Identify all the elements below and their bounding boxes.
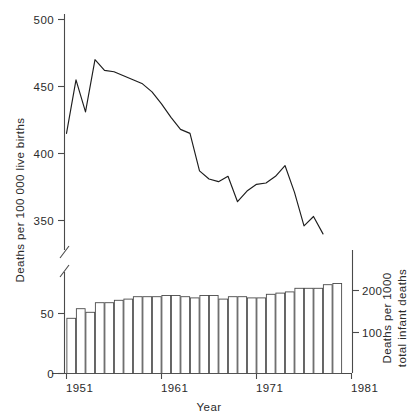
bar-rect xyxy=(257,298,266,374)
bar-rect xyxy=(247,298,256,374)
xtick-label-1981: 1981 xyxy=(351,382,378,394)
bar-rect xyxy=(95,303,104,374)
left-axis-ticks-lower xyxy=(58,314,65,374)
line-series xyxy=(67,60,324,234)
bar-rect xyxy=(86,312,95,373)
bar-series xyxy=(67,284,342,374)
right-axis-ticks xyxy=(353,291,360,333)
bar-rect xyxy=(285,292,294,374)
bar-rect xyxy=(171,296,180,374)
bar-rect xyxy=(76,309,85,374)
bar-rect xyxy=(143,297,152,374)
bar-rect xyxy=(162,296,171,374)
bar-rect xyxy=(219,299,228,373)
left-axis-ticks-upper xyxy=(58,20,65,221)
chart-svg: 500 450 400 350 50 0 200 100 1951 1961 1… xyxy=(0,0,418,420)
ytick-label-500: 500 xyxy=(34,14,54,26)
bar-rect xyxy=(152,297,161,374)
bar-rect xyxy=(209,296,218,374)
bar-rect xyxy=(266,294,275,373)
ytick-label-450: 450 xyxy=(34,81,54,93)
x-axis-ticks xyxy=(67,374,352,380)
bar-rect xyxy=(323,285,332,374)
xtick-label-1951: 1951 xyxy=(66,382,93,394)
ytick-label-50: 50 xyxy=(40,308,54,320)
bar-rect xyxy=(295,288,304,373)
bar-rect xyxy=(105,303,114,374)
chart-figure: 500 450 400 350 50 0 200 100 1951 1961 1… xyxy=(0,0,418,420)
bar-rect xyxy=(124,299,133,373)
ytick-label-400: 400 xyxy=(34,148,54,160)
bar-rect xyxy=(133,297,142,374)
y-axis-right-title-line2: total infant deaths xyxy=(396,269,408,367)
bar-rect xyxy=(304,288,313,373)
xtick-label-1961: 1961 xyxy=(161,382,188,394)
y-axis-left-title: Deaths per 100 000 live births xyxy=(14,118,26,283)
ytick-right-label-100: 100 xyxy=(362,327,382,339)
ytick-label-350: 350 xyxy=(34,215,54,227)
bar-rect xyxy=(276,293,285,373)
xtick-label-1971: 1971 xyxy=(256,382,283,394)
x-axis-title: Year xyxy=(197,401,222,413)
bar-rect xyxy=(333,284,342,374)
y-axis-right-title-line1: Deaths per 1000 xyxy=(381,272,393,363)
bar-rect xyxy=(181,297,190,374)
bar-rect xyxy=(314,288,323,373)
bar-rect xyxy=(238,297,247,374)
bar-rect xyxy=(114,300,123,373)
ytick-label-0: 0 xyxy=(47,368,54,380)
ytick-right-label-200: 200 xyxy=(362,285,382,297)
bar-rect xyxy=(200,296,209,374)
bar-rect xyxy=(67,318,76,373)
bar-rect xyxy=(228,297,237,374)
bar-rect xyxy=(190,298,199,374)
